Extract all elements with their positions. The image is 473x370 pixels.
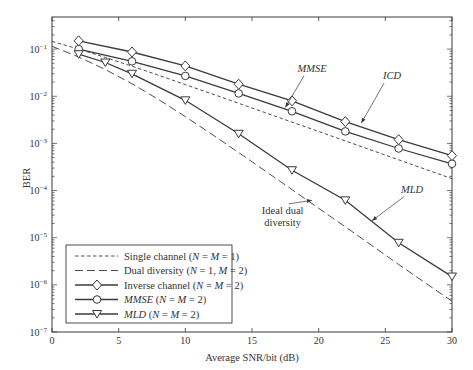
x-tick-label: 0 [50,335,55,346]
y-tick-label: 10−7 [30,326,48,338]
y-tick-label: 10−4 [30,184,48,196]
y-tick-label: 10−3 [30,137,48,149]
ber-chart: 05101520253010−110−210−310−410−510−610−7… [0,0,473,370]
x-tick-label: 30 [447,335,457,346]
annotation-label: ICD [382,70,402,81]
data-point [128,58,136,66]
arrowhead-icon [307,199,312,203]
data-point [395,145,403,153]
annotation-label: Ideal dual [262,205,304,216]
annotation-leader [372,197,404,221]
data-point [394,239,403,247]
x-tick-label: 10 [180,335,190,346]
x-tick-label: 5 [116,335,121,346]
data-point [181,97,190,105]
legend-label: Dual diversity (N = 1, M = 2) [124,265,248,277]
y-tick-label: 10−2 [30,90,48,102]
data-point [342,128,350,136]
legend-marker-icon [93,296,101,304]
annotation-label: MMSE [296,63,327,74]
y-tick-label: 10−1 [30,43,48,55]
data-point [101,59,110,67]
y-tick-label: 10−5 [30,231,48,243]
data-point [448,160,456,168]
legend-label: Inverse channel (N = M = 2) [124,280,244,292]
x-axis-title: Average SNR/bit (dB) [205,352,299,364]
x-tick-label: 15 [247,335,257,346]
data-point [288,167,297,175]
data-point [341,117,350,127]
x-tick-label: 20 [314,335,324,346]
legend: Single channel (N = M = 1)Dual diversity… [66,245,248,323]
data-point [448,273,457,281]
series-3 [75,45,456,167]
series-2 [74,36,456,161]
legend-label: MLD (N = M = 2) [123,309,200,321]
data-point [128,70,137,78]
data-point [235,90,243,98]
arrowhead-icon [372,216,377,221]
legend-label: Single channel (N = M = 1) [124,251,240,263]
arrowhead-icon [361,118,365,123]
data-point [128,47,137,57]
data-point [182,72,190,80]
data-point [181,61,190,71]
x-tick-label: 25 [380,335,390,346]
data-point [74,36,83,46]
data-point [234,79,243,89]
annotation-label: MLD [400,184,424,195]
annotation-leader [361,83,384,123]
data-point [394,135,403,145]
series-line [52,41,452,178]
series-0 [52,41,452,178]
y-tick-label: 10−6 [30,278,48,290]
legend-label: MMSE (N = M = 2) [123,294,207,306]
data-point [288,107,296,115]
data-point [448,151,457,161]
data-point [74,51,83,59]
annotation-label-line2: diversity [264,217,301,228]
y-axis-title: BER [21,168,32,188]
